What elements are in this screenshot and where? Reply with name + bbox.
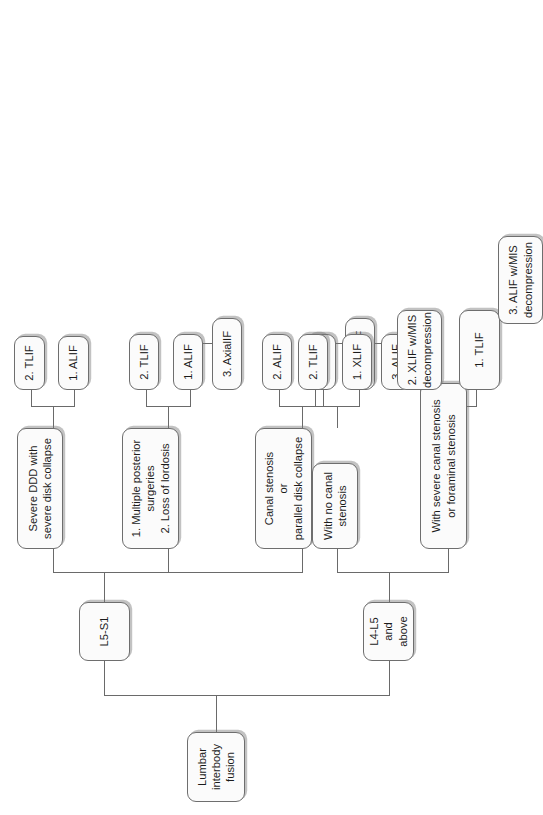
option-canal-stenosis-2-alif[interactable]: 2. ALIF	[262, 334, 292, 390]
option-no-canal-2-tlif[interactable]: 2. TLIF	[298, 334, 328, 390]
connector-severe-ddd-subtrunk	[31, 406, 75, 407]
node-l5s1[interactable]: L5-S1	[79, 602, 130, 661]
option-severe-canal-2-xlif-mis[interactable]: 2. XLIF w/MIS decompression	[397, 310, 442, 390]
connector-l5s1-to-severe-ddd	[53, 549, 54, 574]
connector-no-canal-opt2	[315, 390, 316, 408]
connector-l5s1-to-multiple-posterior	[168, 549, 169, 574]
node-l4l5-and-above[interactable]: L4-L5 and above	[363, 602, 414, 661]
connector-canal-stenosis-opt2	[279, 390, 280, 408]
connector-main-trunk	[104, 695, 390, 696]
connector-severe-ddd-opt1	[74, 390, 75, 408]
connector-severe-ddd-opt2	[31, 390, 32, 408]
connector-root-to-trunk	[216, 696, 217, 732]
option-multiple-posterior-1-alif[interactable]: 1. ALIF	[173, 334, 203, 390]
node-multiple-posterior-surgeries[interactable]: 1. Multiple posterior surgeries 2. Loss …	[122, 428, 179, 549]
connector-canal-stenosis-out	[302, 407, 303, 428]
node-canal-stenosis[interactable]: Canal stenosis or parallel disk collapse	[255, 428, 312, 549]
connector-trunk-to-l5s1	[104, 661, 105, 697]
option-severe-canal-1-tlif[interactable]: 1. TLIF	[459, 310, 500, 390]
connector-trunk-to-l4l5	[389, 661, 390, 697]
connector-multiple-posterior-out	[168, 407, 169, 428]
connector-multiple-posterior-subtrunk	[146, 406, 190, 407]
connector-no-canal-subtrunk	[315, 406, 359, 407]
connector-no-canal-out	[337, 407, 338, 428]
connector-l5s1-to-canal-stenosis	[302, 549, 303, 574]
node-with-severe-canal-stenosis[interactable]: With severe canal stenosis or foraminal …	[420, 383, 467, 549]
option-multiple-posterior-3-axialif[interactable]: 3. AxialIF	[212, 318, 242, 390]
node-severe-ddd[interactable]: Severe DDD with severe disk collapse	[17, 428, 63, 549]
node-root[interactable]: Lumbar interbody fusion	[187, 732, 245, 802]
connector-l4l5-out	[389, 573, 390, 602]
connector-multiple-posterior-opt2	[146, 390, 147, 408]
connector-severe-ddd-out	[53, 407, 54, 428]
connector-l4l5-to-severe-canal	[448, 549, 449, 574]
connector-l5s1-subtrunk	[53, 572, 303, 573]
option-severe-canal-3-alif-mis[interactable]: 3. ALIF w/MIS decompression	[498, 236, 543, 324]
connector-l4l5-subtrunk	[337, 572, 448, 573]
node-with-no-canal-stenosis[interactable]: With no canal stenosis	[312, 463, 358, 549]
option-severe-ddd-1-alif[interactable]: 1. ALIF	[58, 336, 89, 390]
option-no-canal-1-xlif[interactable]: 1. XLIF	[342, 334, 372, 390]
option-severe-ddd-2-tlif[interactable]: 2. TLIF	[14, 336, 45, 390]
connector-l4l5-to-no-canal	[337, 549, 338, 574]
connector-l5s1-out	[104, 573, 105, 602]
option-multiple-posterior-2-tlif[interactable]: 2. TLIF	[129, 334, 159, 390]
